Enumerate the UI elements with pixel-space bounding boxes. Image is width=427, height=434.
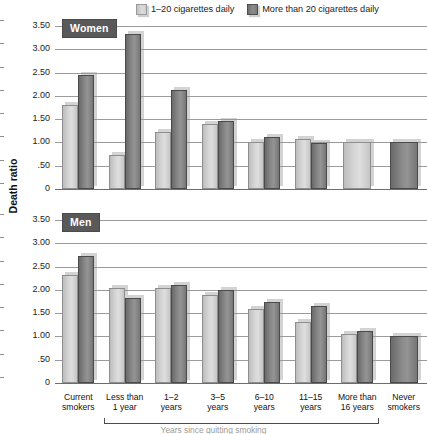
bar-light [202,124,218,189]
bar-face [295,139,311,189]
y-axis-tick-label: 1.50 [6,113,50,123]
bar-face [62,275,78,383]
x-axis-label-line1: More than [334,392,381,402]
x-axis-labels: CurrentsmokersLess than1 year1–2years3–5… [55,392,427,413]
bar-light [109,288,125,383]
y-axis-tick-label: 1.50 [6,307,50,317]
plot-area-men: 3.503.002.502.001.501.00.500 [55,220,427,383]
y-axis-tick-label: 2.50 [6,67,50,77]
bar-dark [218,290,234,383]
y-axis-tick-mark [0,354,4,355]
y-axis-tick-label: .50 [6,160,50,170]
bar-dark [78,75,94,189]
bar-face [357,331,373,383]
legend-swatch-dark-icon [247,4,258,15]
x-axis-label-line2: 1 year [102,402,149,412]
x-axis-label: Currentsmokers [55,392,102,413]
bar-light [62,105,78,189]
y-axis-tick-mark [0,160,4,161]
x-axis-label-line2: smokers [55,402,102,412]
bar-light [295,322,311,383]
y-axis-tick-label: .50 [6,354,50,364]
x-axis-label-line2: 16 years [334,402,381,412]
y-axis-tick-label: 2.00 [6,90,50,100]
y-axis-tick-mark [0,307,4,308]
y-axis-tick-mark [0,377,4,378]
bar-face [78,75,94,189]
bar-face [264,302,280,384]
plot-area-women: 3.503.002.502.001.501.00.500 [55,26,427,189]
axis-baseline [55,383,427,384]
y-axis-tick-mark [0,113,4,114]
legend-label-dark: More than 20 cigarettes daily [262,4,379,14]
bar-group [241,26,288,189]
y-axis-tick-label: 0 [6,377,50,387]
bar-light [155,132,171,189]
legend-item-dark: More than 20 cigarettes daily [247,4,379,15]
bar-dark [311,143,327,189]
x-axis-label: 11–15years [288,392,335,413]
bar-face [264,137,280,189]
bar-dark [311,306,327,383]
chart-legend: 1–20 cigarettes daily More than 20 cigar… [136,2,379,16]
x-axis-label-line2: years [288,402,335,412]
y-axis-tick-label: 3.50 [6,214,50,224]
bar-group [148,220,195,383]
x-axis-label: 1–2years [148,392,195,413]
bar-face [248,309,264,384]
x-axis-label: Neversmokers [381,392,427,413]
bar-face [295,322,311,383]
bar-face [341,334,357,383]
bar-face [109,288,125,383]
x-axis-label-line1: 1–2 [148,392,195,402]
bar-dark [390,336,418,383]
bar-group [288,220,335,383]
bar-group [102,220,149,383]
bar-face [218,121,234,189]
bar-light [341,334,357,383]
x-axis-label-line1: Current [55,392,102,402]
bar-face [248,142,264,189]
bar-group [195,220,242,383]
y-axis-tick-label: 0 [6,183,50,193]
bar-face [390,336,418,383]
bar-group [102,26,149,189]
bar-groups [55,26,427,189]
bar-face [390,142,418,189]
y-axis-tick-mark [0,67,4,68]
x-axis-label: 3–5years [195,392,242,413]
quit-duration-bracket [104,418,379,424]
y-axis-tick-mark [0,90,4,91]
bar-face [202,124,218,189]
bar-light [109,155,125,189]
bar-dark [264,302,280,384]
x-axis-label: 6–10years [241,392,288,413]
bar-face [125,34,141,189]
bar-light [62,275,78,383]
bar-face [62,105,78,189]
bar-dark [264,137,280,189]
x-axis-label-line1: Never [381,392,427,402]
bar-face [155,288,171,383]
legend-item-light: 1–20 cigarettes daily [136,4,234,15]
x-axis-label-line1: 3–5 [195,392,242,402]
x-axis-label-line1: 11–15 [288,392,335,402]
x-axis-label-line2: smokers [381,402,427,412]
chart-figure: 1–20 cigarettes daily More than 20 cigar… [0,0,427,434]
y-axis-tick-label: 3.00 [6,237,50,247]
bar-light [155,288,171,383]
bar-light [248,309,264,384]
bar-light [295,139,311,189]
y-axis-tick-label: 3.50 [6,20,50,30]
bar-face [311,143,327,189]
x-axis-label-line1: Less than [102,392,149,402]
bar-dark [171,285,187,383]
y-axis-tick-label: 1.00 [6,136,50,146]
bar-group [334,220,381,383]
bar-face [155,132,171,189]
x-axis-label-line1: 6–10 [241,392,288,402]
legend-swatch-light-icon [136,4,147,15]
bar-light [343,142,371,189]
y-axis-tick-mark [0,183,4,184]
bar-face [125,298,141,383]
